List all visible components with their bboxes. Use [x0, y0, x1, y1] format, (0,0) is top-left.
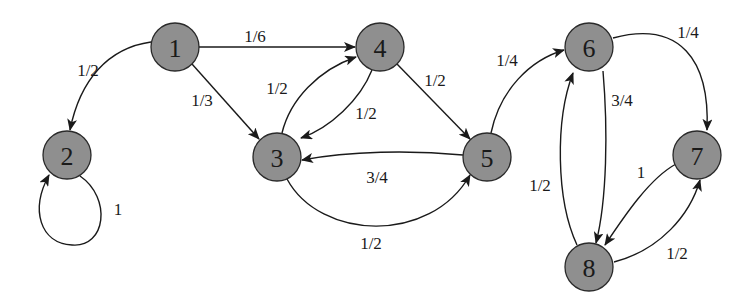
markov-chain-diagram: 1/2 1/6 1/3 1 1/2 1/2 1/2 3/4 1/2 1/4 1/…: [0, 0, 750, 308]
edge-label-2-2: 1: [114, 200, 123, 219]
edge-label-7-8: 1: [637, 163, 646, 182]
state-node-1: 1: [151, 23, 199, 71]
state-node-2: 2: [43, 131, 91, 179]
edge-5-3: [302, 152, 463, 160]
state-node-7: 7: [673, 131, 721, 179]
edge-label-6-7: 1/4: [677, 23, 699, 42]
edge-6-7: [613, 34, 707, 130]
edge-8-6: [560, 73, 577, 245]
edge-label-3-4: 1/2: [266, 79, 288, 98]
edge-label-8-6: 1/2: [529, 176, 551, 195]
edge-label-6-8: 3/4: [611, 91, 633, 110]
state-node-4: 4: [356, 23, 404, 71]
state-node-8: 8: [565, 243, 613, 291]
edge-label-1-2: 1/2: [77, 61, 99, 80]
edge-1-2: [70, 42, 151, 130]
state-label: 1: [169, 34, 182, 63]
state-label: 8: [583, 254, 596, 283]
state-label: 3: [271, 144, 284, 173]
state-label: 7: [691, 142, 704, 171]
edge-3-4: [282, 57, 356, 133]
edge-label-4-5: 1/2: [424, 71, 446, 90]
state-node-5: 5: [463, 133, 511, 181]
edge-2-2-self-loop: [39, 175, 101, 245]
state-label: 2: [61, 142, 74, 171]
state-node-6: 6: [565, 23, 613, 71]
state-node-3: 3: [253, 133, 301, 181]
edge-label-1-3: 1/3: [191, 91, 213, 110]
state-label: 6: [583, 34, 596, 63]
edge-label-4-3: 1/2: [355, 104, 377, 123]
edge-6-8: [596, 71, 606, 243]
edge-label-1-4: 1/6: [244, 27, 266, 46]
edge-label-5-6: 1/4: [496, 51, 518, 70]
edge-label-8-7: 1/2: [666, 244, 688, 263]
state-label: 5: [481, 144, 494, 173]
edge-label-5-3: 3/4: [366, 168, 388, 187]
edge-label-3-5: 1/2: [360, 234, 382, 253]
state-label: 4: [374, 34, 387, 63]
